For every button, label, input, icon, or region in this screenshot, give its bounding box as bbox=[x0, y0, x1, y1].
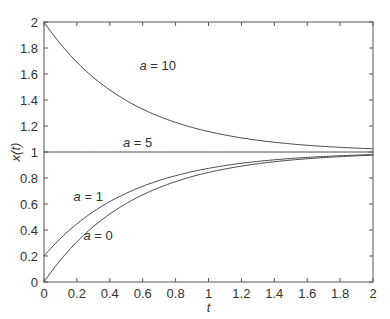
x-tick-label: 0.8 bbox=[167, 286, 185, 301]
y-tick-label: 1.8 bbox=[20, 41, 38, 56]
line-chart: 00.20.40.60.811.21.41.61.8200.20.40.60.8… bbox=[0, 0, 390, 319]
y-tick-label: 0.6 bbox=[20, 197, 38, 212]
y-tick-label: 2 bbox=[31, 15, 38, 30]
x-tick-label: 0.6 bbox=[134, 286, 152, 301]
y-tick-label: 0.2 bbox=[20, 249, 38, 264]
x-tick-label: 0 bbox=[40, 286, 47, 301]
annotation-label: a = 0 bbox=[83, 228, 112, 243]
x-tick-label: 1.6 bbox=[298, 286, 316, 301]
y-tick-label: 1.6 bbox=[20, 67, 38, 82]
y-axis-label: x(t) bbox=[8, 143, 23, 163]
y-tick-label: 1.4 bbox=[20, 93, 38, 108]
x-axis-label: t bbox=[207, 300, 212, 315]
x-tick-label: 0.4 bbox=[101, 286, 119, 301]
annotation-label: a = 1 bbox=[74, 189, 103, 204]
y-tick-label: 0.4 bbox=[20, 223, 38, 238]
y-tick-label: 1 bbox=[31, 145, 38, 160]
x-tick-label: 2 bbox=[369, 286, 376, 301]
series-line bbox=[44, 155, 373, 282]
x-tick-label: 0.2 bbox=[68, 286, 86, 301]
series-line bbox=[44, 22, 373, 149]
y-tick-label: 1.2 bbox=[20, 119, 38, 134]
x-tick-label: 1.4 bbox=[265, 286, 283, 301]
annotation-label: a = 5 bbox=[123, 135, 152, 150]
y-tick-label: 0 bbox=[31, 275, 38, 290]
x-tick-label: 1 bbox=[205, 286, 212, 301]
x-tick-label: 1.8 bbox=[331, 286, 349, 301]
x-tick-label: 1.2 bbox=[232, 286, 250, 301]
y-tick-label: 0.8 bbox=[20, 171, 38, 186]
annotation-label: a = 10 bbox=[139, 58, 176, 73]
